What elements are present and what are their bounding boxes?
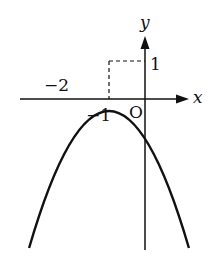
y-axis-arrow-icon: [141, 36, 150, 49]
y-axis-label: y: [140, 14, 150, 31]
parabola-curve: [29, 111, 189, 248]
x-axis-arrow-icon: [176, 95, 189, 104]
origin-label: O: [129, 104, 143, 121]
tick-label-neg-two: −2: [44, 77, 69, 94]
tick-label-one: 1: [150, 56, 161, 73]
parabola-diagram: y x 1 −2 −1 O: [0, 0, 214, 259]
tick-label-neg-one: −1: [86, 107, 111, 124]
x-axis-label: x: [193, 89, 203, 106]
graph-canvas: [0, 0, 214, 259]
